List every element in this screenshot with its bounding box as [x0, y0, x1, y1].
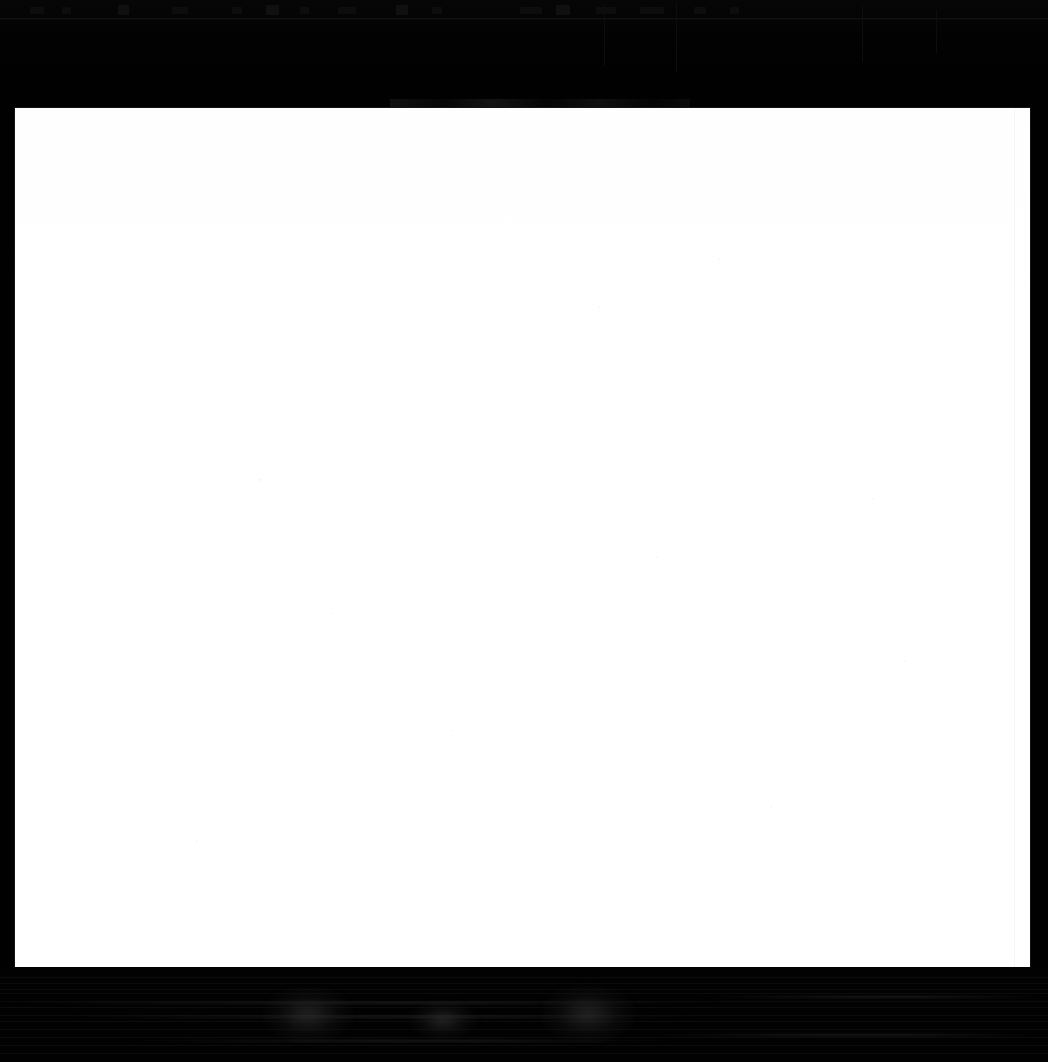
toolbar-ghost-item[interactable] [232, 7, 242, 14]
scanline [0, 1007, 1048, 1008]
horizontal-streak [120, 1040, 680, 1042]
toolbar-ghost-item[interactable] [694, 7, 706, 14]
horizontal-streak [640, 1034, 1048, 1036]
compression-speckle [656, 556, 658, 558]
panel-seam [676, 2, 677, 72]
toolbar-ghost-item[interactable] [300, 7, 309, 14]
main-content-panel[interactable] [15, 108, 1030, 967]
scanline [0, 983, 1048, 984]
scanline [0, 1045, 1048, 1046]
taskbar-ghost-item[interactable] [408, 1000, 478, 1040]
taskbar-ghost-item[interactable] [262, 986, 354, 1044]
toolbar-ghost-item[interactable] [520, 7, 542, 14]
compression-speckle [770, 806, 772, 808]
taskbar-ghost-item[interactable] [540, 984, 636, 1044]
scanline [0, 1037, 1048, 1038]
top-chrome-band [0, 0, 1048, 108]
toolbar-ghost-item[interactable] [596, 7, 616, 14]
compression-speckle [258, 478, 261, 481]
scanline [0, 989, 1048, 990]
compression-speckle [330, 612, 332, 614]
scanline [0, 1021, 1048, 1022]
scanline [0, 977, 1048, 978]
compression-speckle [196, 840, 198, 842]
scanline [0, 1029, 1048, 1030]
horizontal-streak [60, 1016, 700, 1018]
scanline [0, 993, 1048, 994]
compression-speckle [598, 306, 600, 308]
toolbar-ghost-item[interactable] [432, 7, 442, 14]
toolbar-ghost-item[interactable] [62, 7, 71, 14]
toolbar-ghost-item[interactable] [556, 5, 570, 15]
compression-speckle [718, 258, 720, 260]
bottom-chrome-band [0, 967, 1048, 1062]
compression-speckle [452, 730, 454, 732]
compression-speckle [904, 660, 906, 662]
horizontal-streak [700, 996, 1048, 998]
panel-seam [862, 6, 863, 62]
panel-seam [604, 4, 605, 66]
content-surface [15, 108, 1030, 967]
toolbar-ghost-item[interactable] [338, 7, 356, 14]
toolbar-ghost-item[interactable] [730, 7, 739, 14]
compression-speckle [872, 498, 874, 500]
toolbar-ghost-item[interactable] [172, 7, 188, 14]
toolbar-ghost-item[interactable] [30, 7, 44, 14]
toolbar-ghost-item[interactable] [396, 5, 408, 15]
panel-seam [936, 10, 937, 54]
unreadable-text-strip [390, 99, 690, 107]
panel-right-seam [1014, 108, 1015, 967]
toolbar-divider-shadow [0, 19, 1048, 20]
toolbar-ghost-item[interactable] [640, 7, 664, 14]
screenshot-root [0, 0, 1048, 1062]
toolbar-ghost-item[interactable] [118, 5, 129, 15]
toolbar-ghost-item[interactable] [266, 5, 279, 15]
scanline [0, 1053, 1048, 1054]
horizontal-streak [0, 1002, 720, 1004]
